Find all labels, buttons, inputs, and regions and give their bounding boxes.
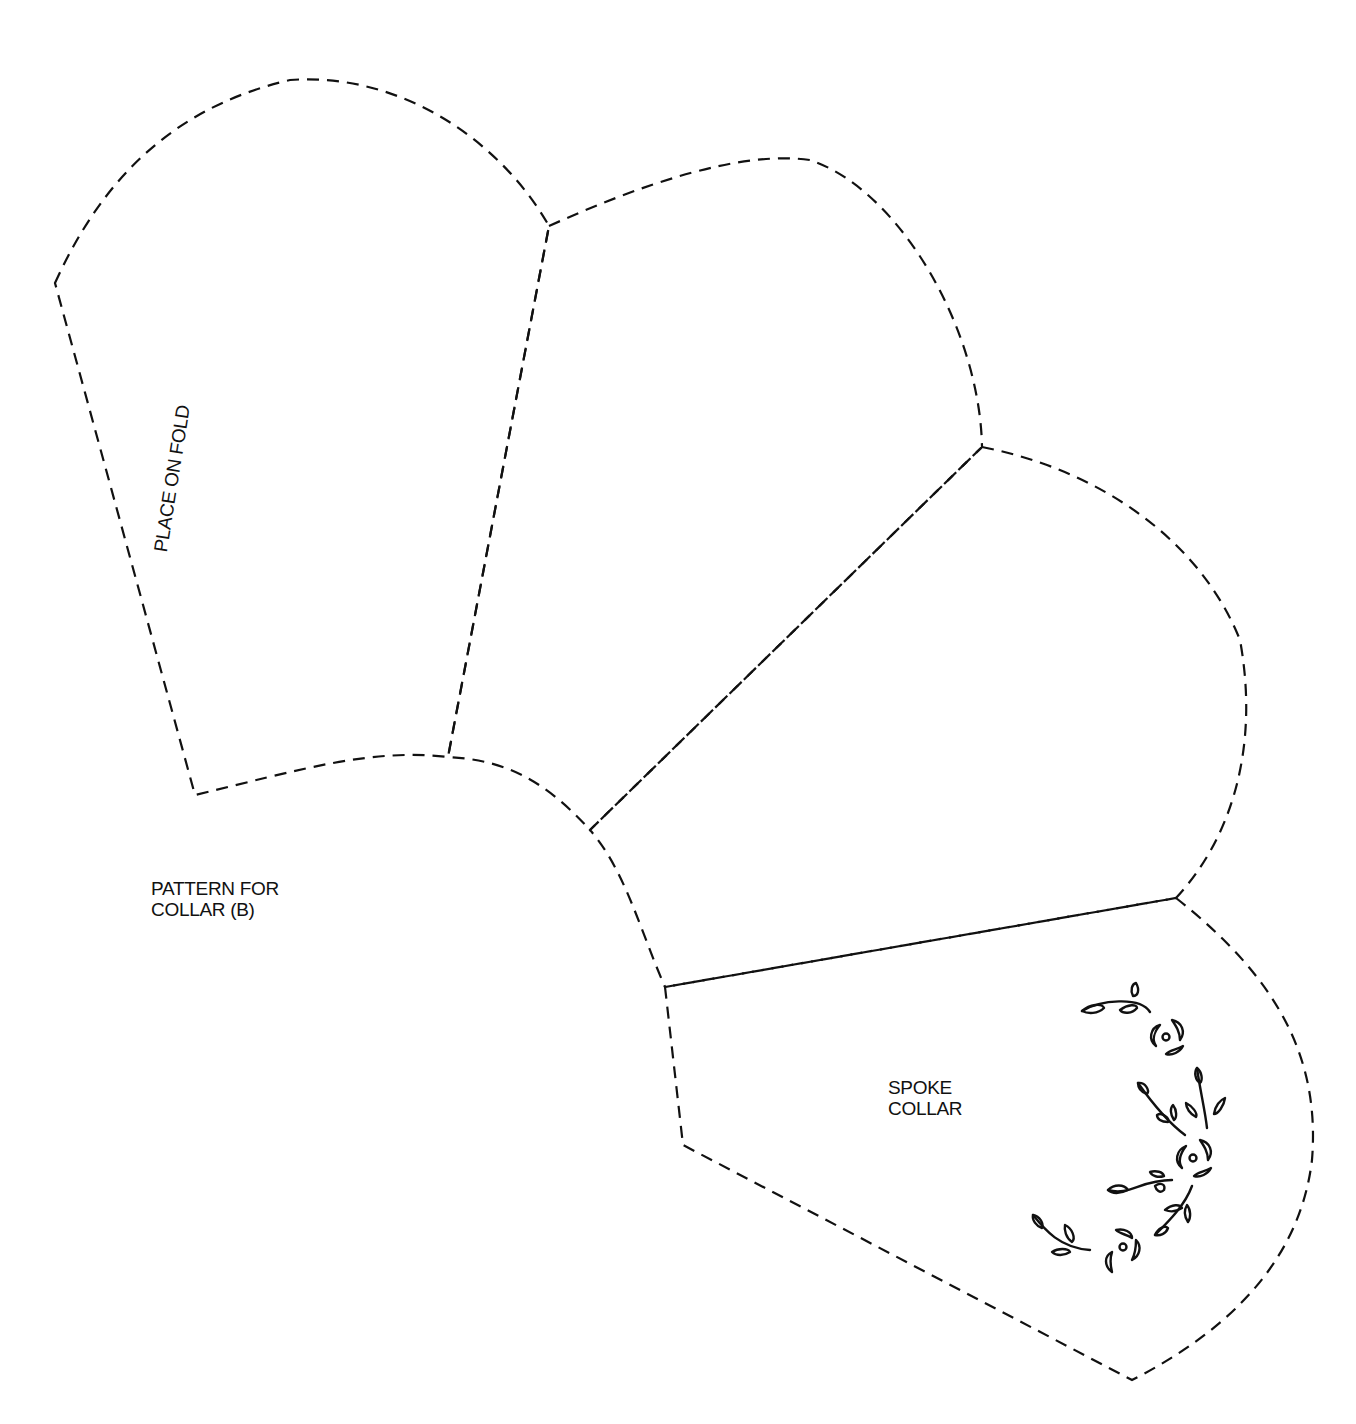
spoke-collar-label: SPOKE COLLAR [888,1077,962,1119]
floral-embroidery-motif [1033,983,1225,1272]
spoke-label-line-2: COLLAR [888,1098,962,1119]
flower-icon [1106,1229,1139,1272]
flower-icon [1177,1140,1211,1177]
leaf-sprig-icon [1138,1083,1185,1135]
pattern-title-line-1: PATTERN FOR [151,878,279,899]
pattern-page: PLACE ON FOLD PATTERN FOR COLLAR (B) SPO… [0,0,1356,1424]
collar-panel-3-outline [590,447,1246,987]
collar-panel-2-outline [448,158,982,830]
flower-icon [1151,1020,1183,1055]
spoke-label-line-1: SPOKE [888,1077,962,1098]
collar-pattern-diagram [0,0,1356,1424]
collar-panel-1-outline [55,79,549,795]
collar-panel-4-outline [665,898,1313,1380]
pattern-title-line-2: COLLAR (B) [151,899,279,920]
pattern-title-label: PATTERN FOR COLLAR (B) [151,878,279,920]
